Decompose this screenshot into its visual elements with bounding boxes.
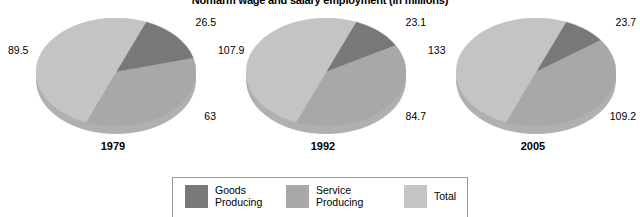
- pie-slices: [456, 18, 616, 130]
- slice-label-total: 89.5: [8, 44, 28, 56]
- pie-graphic: [246, 18, 406, 136]
- pie-graphic: [36, 18, 196, 136]
- pie-slices: [36, 18, 196, 130]
- pie-slices: [246, 18, 406, 130]
- legend-item-total: Total: [404, 185, 456, 208]
- pie-graphic: [456, 18, 616, 136]
- year-label: 1992: [218, 140, 428, 152]
- slice-label-total: 107.9: [218, 44, 244, 56]
- slice-label-goods: 23.7: [616, 16, 636, 28]
- slice-label-service: 63: [204, 110, 216, 122]
- legend-label-goods-producing: Goods Producing: [215, 185, 262, 208]
- legend-label-service-producing: Service Producing: [316, 185, 363, 208]
- legend-swatch-goods-producing: [185, 185, 208, 208]
- pie-chart-1992: 23.1 84.7 107.9 1992: [218, 14, 428, 164]
- legend-item-goods-producing: Goods Producing: [185, 185, 262, 208]
- chart-title: Nonfarm wage and salary employment (in m…: [0, 0, 640, 6]
- chart-legend: Goods Producing Service Producing Total: [172, 177, 468, 217]
- year-label: 1979: [8, 140, 218, 152]
- year-label: 2005: [428, 140, 638, 152]
- slice-label-goods: 23.1: [406, 16, 426, 28]
- legend-label-total: Total: [434, 191, 456, 203]
- legend-item-service-producing: Service Producing: [286, 185, 363, 208]
- slice-label-total: 133: [428, 44, 446, 56]
- pie-chart-1979: 26.5 63 89.5 1979: [8, 14, 218, 164]
- pie-chart-2005: 23.7 109.2 133 2005: [428, 14, 638, 164]
- legend-swatch-service-producing: [286, 185, 309, 208]
- slice-label-goods: 26.5: [196, 16, 216, 28]
- legend-swatch-total: [404, 185, 427, 208]
- slice-label-service: 109.2: [610, 110, 636, 122]
- slice-label-service: 84.7: [406, 110, 426, 122]
